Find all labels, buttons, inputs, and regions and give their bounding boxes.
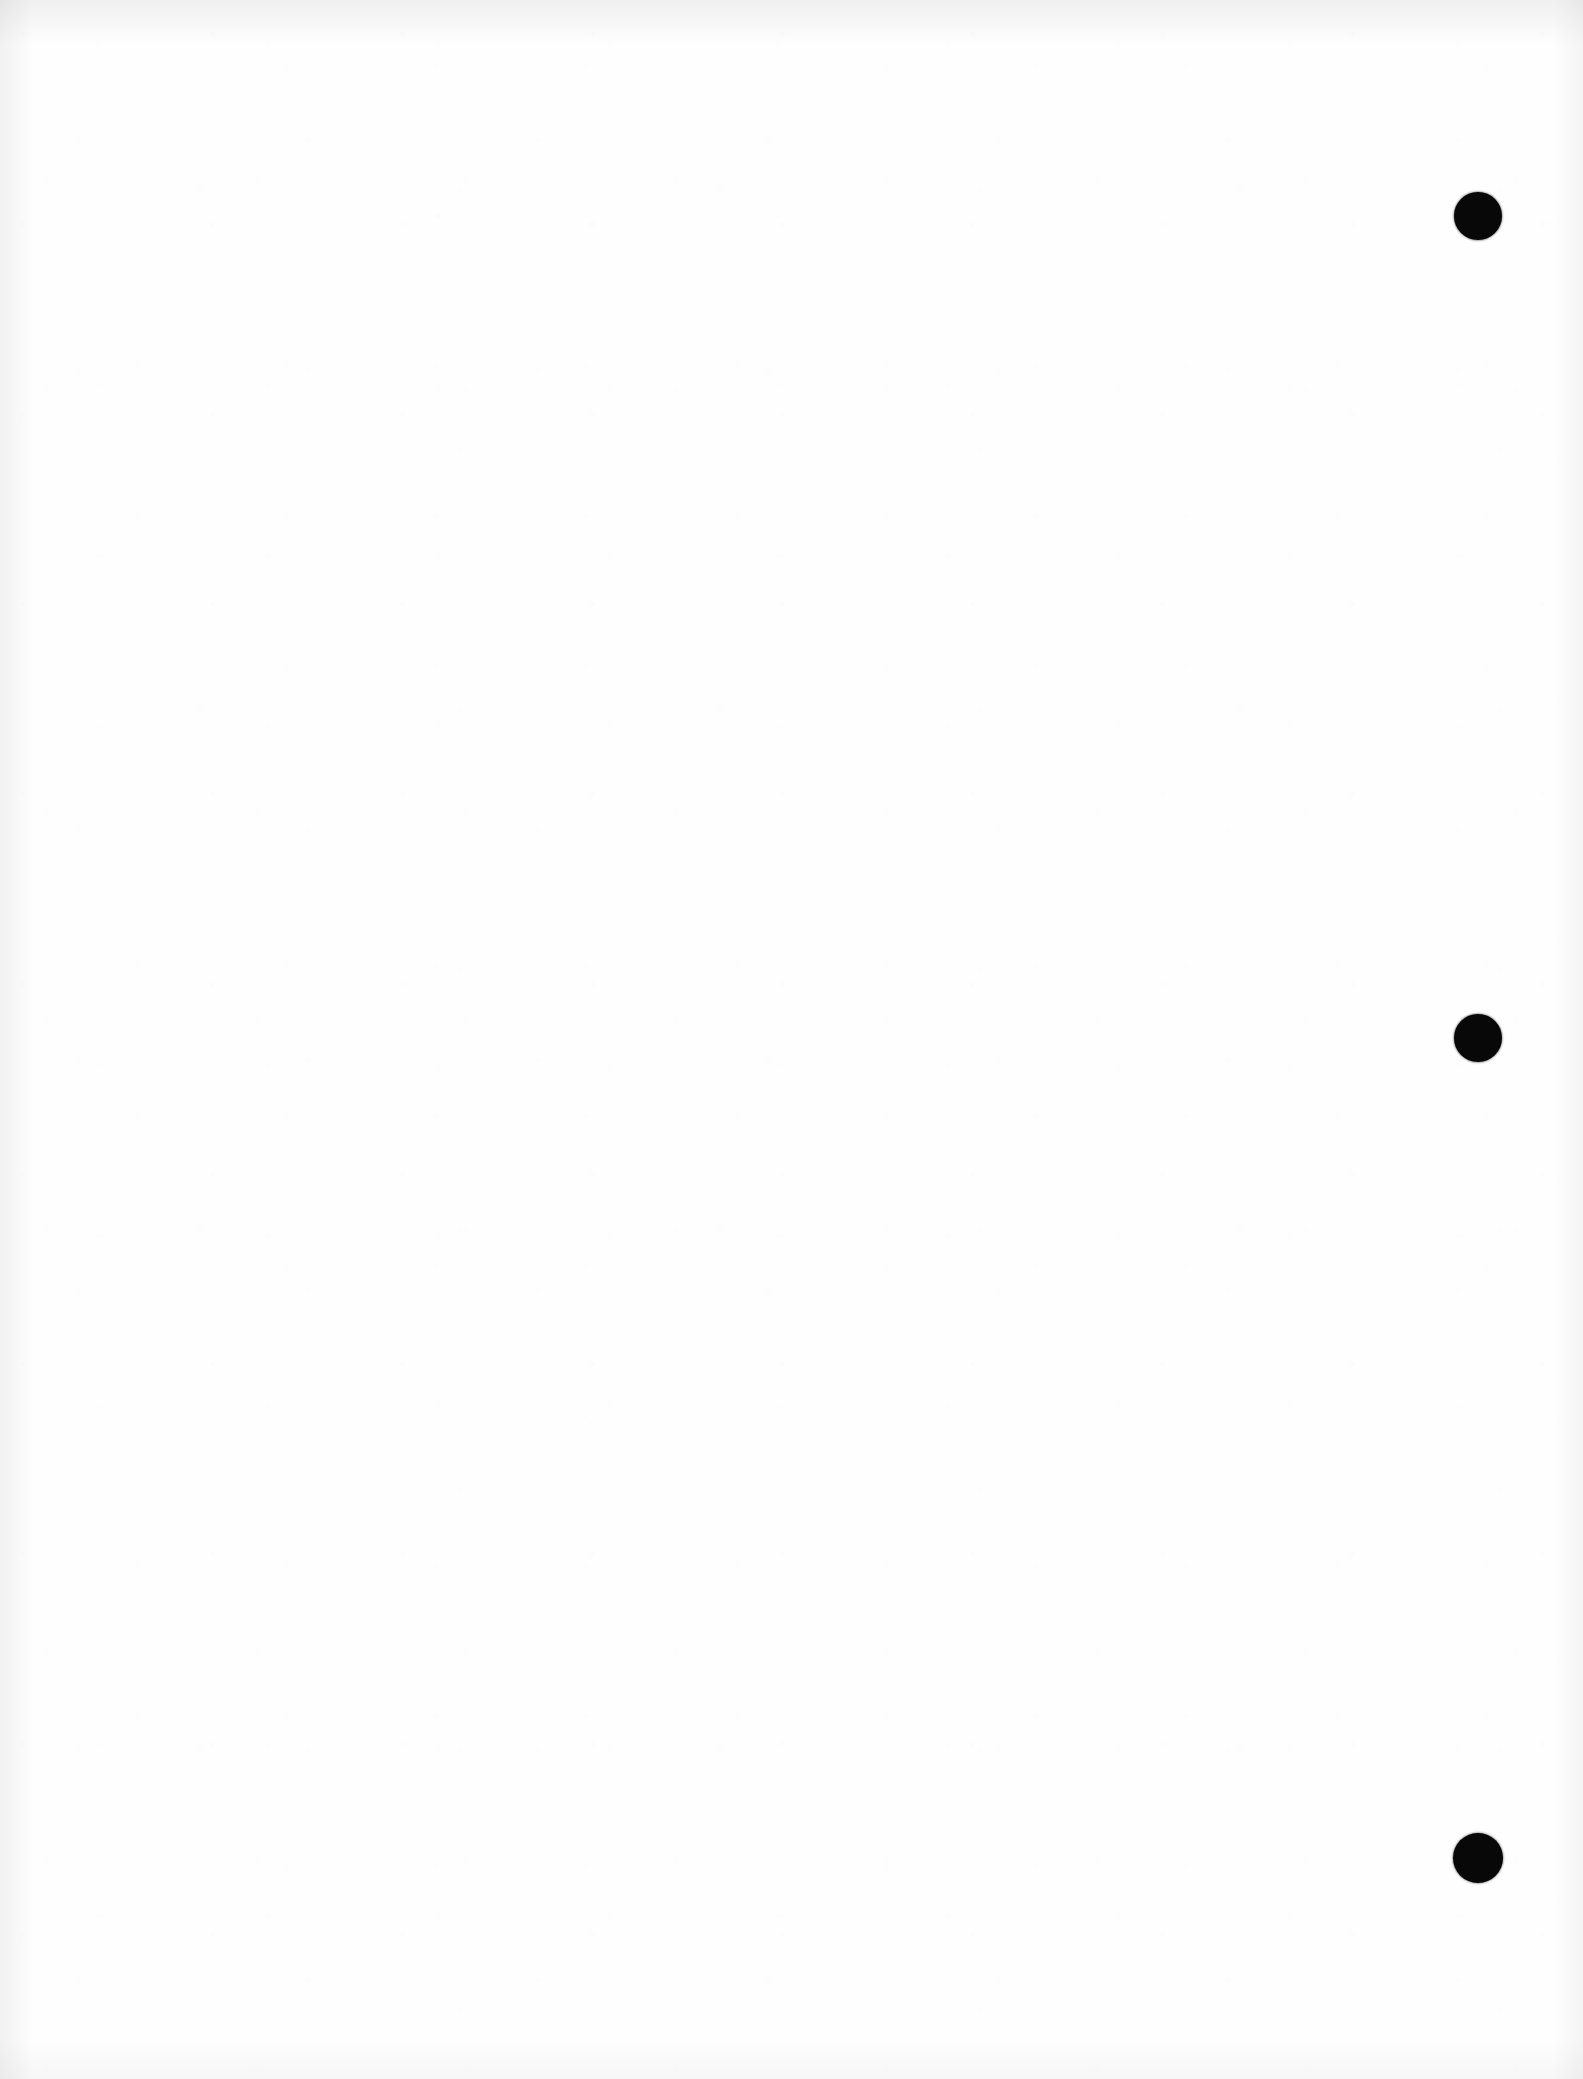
punch-hole-top (1454, 192, 1502, 240)
page-content-area (120, 120, 1360, 1960)
punch-hole-bottom (1453, 1833, 1503, 1883)
punch-hole-middle (1454, 1014, 1502, 1062)
scanned-page (0, 0, 1583, 2079)
